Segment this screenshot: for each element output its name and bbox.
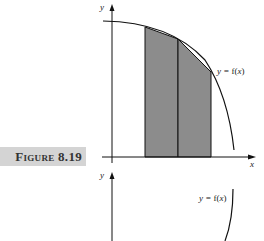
y-axis-arrow-icon [110, 4, 115, 11]
figure-graphic: y x y = f(x) y y = f(x) [0, 0, 264, 241]
curve-label-top: y = f(x) [216, 66, 245, 76]
trapezoid-shading [145, 27, 211, 157]
curve-label-bottom: y = f(x) [198, 193, 227, 203]
y-axis-label-top: y [99, 2, 104, 12]
x-axis-label: x [249, 159, 254, 169]
y-axis-bottom-arrow-icon [110, 172, 115, 179]
y-axis-label-bottom: y [99, 170, 104, 180]
